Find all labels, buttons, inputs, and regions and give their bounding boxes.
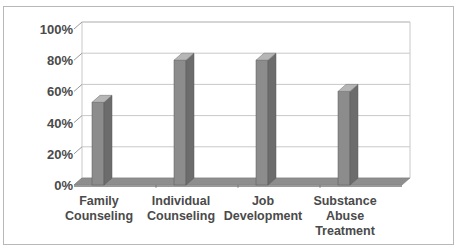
x-axis-labels: FamilyCounselingIndividualCounselingJobD…: [65, 194, 377, 238]
chart-floor: [74, 178, 410, 188]
x-category-label: Job: [252, 194, 275, 208]
y-tick-label: 60%: [47, 84, 73, 99]
x-category-label: Treatment: [315, 224, 376, 238]
y-tick-label: 20%: [47, 147, 73, 162]
x-category-label: Counseling: [65, 209, 133, 223]
x-category-label: Abuse: [326, 209, 364, 223]
bar: [174, 53, 194, 185]
bar: [92, 95, 112, 185]
bar-chart: 0%20%40%60%80%100% FamilyCounselingIndiv…: [0, 0, 457, 248]
x-category-label: Substance: [313, 194, 376, 208]
y-tick-label: 100%: [40, 22, 74, 37]
bar: [256, 53, 276, 185]
x-category-label: Individual: [152, 194, 210, 208]
x-category-label: Family: [79, 194, 119, 208]
y-tick-label: 80%: [47, 53, 73, 68]
y-axis: 0%20%40%60%80%100%: [40, 22, 74, 193]
gridlines: [74, 22, 410, 185]
x-category-label: Counseling: [147, 209, 215, 223]
x-category-label: Development: [224, 209, 303, 223]
bars: [92, 53, 358, 185]
y-tick-label: 40%: [47, 116, 73, 131]
bar: [338, 84, 358, 185]
y-tick-label: 0%: [54, 178, 73, 193]
